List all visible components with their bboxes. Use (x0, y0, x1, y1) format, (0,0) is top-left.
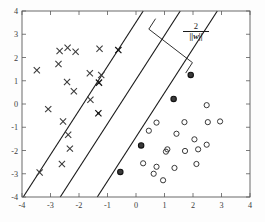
x-tick-label: -1 (104, 201, 111, 210)
support-vector-x-core (117, 49, 119, 51)
support-vector-o (118, 169, 123, 174)
y-tick-label: -2 (11, 147, 18, 156)
x-tick-label: -2 (76, 201, 83, 210)
support-vector-o (188, 72, 193, 77)
margin-numerator: 2 (183, 22, 209, 31)
x-tick-label: -4 (19, 201, 26, 210)
x-tick-label: 0 (134, 201, 138, 210)
y-tick-label: 1 (14, 77, 18, 86)
support-vector-x-core (98, 81, 100, 83)
x-tick-label: 4 (248, 201, 252, 210)
y-tick-label: 3 (14, 30, 18, 39)
y-tick-label: 2 (14, 54, 18, 63)
y-tick-label: -3 (11, 170, 18, 179)
y-tick-label: -4 (11, 193, 18, 202)
plot-background (22, 11, 250, 197)
support-vector-x-core (97, 112, 99, 114)
y-tick-label: -1 (11, 123, 18, 132)
y-tick-label: 0 (14, 100, 18, 109)
scatter-plot-canvas: -4-3-2-101234-4-3-2-101234 (0, 0, 265, 222)
support-vector-o (171, 96, 176, 101)
x-tick-label: -3 (47, 201, 54, 210)
x-tick-label: 3 (219, 201, 223, 210)
x-tick-label: 2 (191, 201, 195, 210)
margin-width-annotation: 2 ||w|| (183, 22, 209, 41)
svm-margin-figure: -4-3-2-101234-4-3-2-101234 2 ||w|| (0, 0, 265, 222)
margin-denominator: ||w|| (183, 33, 209, 41)
x-tick-label: 1 (162, 201, 166, 210)
y-tick-label: 4 (14, 7, 18, 16)
support-vector-o (138, 143, 143, 148)
